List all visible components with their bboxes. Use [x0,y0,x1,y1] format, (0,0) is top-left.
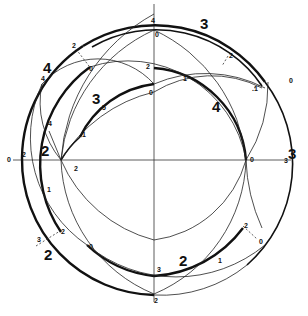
point-label: 0 [289,77,293,84]
point-label: 1 [183,75,187,82]
point-label: 1 [47,186,51,193]
point-label: 0 [250,156,254,163]
point-label: 2 [22,151,26,158]
point-label: 1 [218,257,222,264]
point-label: 4 [151,17,155,24]
thin-arc-12 [30,84,87,245]
thin-arc-15 [246,82,268,160]
point-label: 3 [157,266,161,273]
point-label: 2 [229,52,233,59]
point-label: 0 [259,238,263,245]
point-label: 2 [244,222,248,229]
point-label: 0 [155,31,159,38]
point-label: 2 [72,42,76,49]
point-label: 0 [89,65,93,72]
point-label: 3 [37,236,41,243]
big-label: 4 [43,59,52,76]
point-label: 2 [146,63,150,70]
point-label: 0 [149,89,153,96]
big-label: 3 [92,90,100,107]
outer-arc-bottom-right [154,265,247,295]
point-label: 1 [82,131,86,138]
big-label: 2 [44,246,52,263]
outer-arc-3-right [247,82,293,265]
point-label: .1 [252,85,258,92]
outer-arc-3-top [83,25,265,82]
arc-2-bottom-right [154,228,243,276]
point-label: 4 [48,120,52,127]
point-label: 2 [61,228,65,235]
big-label: 2 [179,252,187,269]
point-label: 0 [7,156,11,163]
geometric-construction-diagram: 34342322 4020242100.154120203123020132 [0,0,308,316]
point-label: 4 [41,75,45,82]
big-label: 4 [212,98,221,115]
thin-arc-6 [90,61,246,160]
dashed-connector-top-right [222,56,228,66]
point-label: 0 [89,243,93,250]
thin-arc-1 [42,59,154,84]
point-label: 3 [284,157,288,164]
thin-arc-17 [246,160,262,228]
arc-2-bottom [87,245,154,276]
thin-arc-8 [154,160,246,240]
big-label: 3 [200,15,208,32]
point-label: 5 [102,104,106,111]
big-label: 2 [41,142,49,159]
point-label: 2 [154,297,158,304]
big-label: 3 [288,145,296,162]
arc-4-right [154,68,246,160]
dashed-connector-top-left [76,49,89,66]
point-label: 2 [74,165,78,172]
thin-arc-9 [61,160,154,240]
